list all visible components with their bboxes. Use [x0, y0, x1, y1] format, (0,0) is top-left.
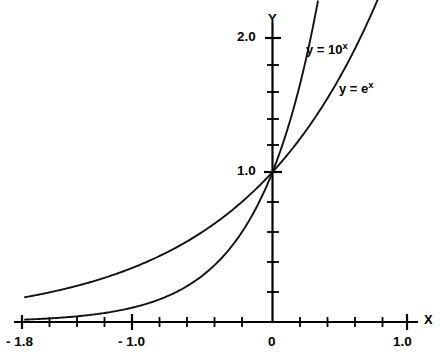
curve-y-equals-10-to-the-x	[25, 1, 318, 319]
x-tick-label-minus-1-8: - 1.8	[6, 335, 33, 349]
curve-label-10-to-the-x-text: y = 10	[306, 42, 343, 57]
x-tick-label-1-0: 1.0	[393, 335, 412, 349]
y-tick-label-1-0: 1.0	[237, 164, 256, 178]
curve-label-e-to-the-x-text: y = e	[339, 81, 368, 96]
chart-plot-area	[0, 0, 440, 356]
curve-label-e-to-the-x: y = ex	[339, 82, 374, 95]
exponential-functions-chart: Y X 2.0 1.0 - 1.8 - 1.0 0 1.0 y = 10x y …	[0, 0, 440, 356]
curve-label-10-to-the-x-exponent: x	[343, 40, 348, 51]
curve-label-10-to-the-x: y = 10x	[306, 43, 348, 56]
x-tick-label-zero: 0	[268, 335, 276, 349]
curve-label-e-to-the-x-exponent: x	[368, 79, 373, 90]
y-axis-label: Y	[268, 12, 277, 25]
x-axis-label: X	[424, 313, 433, 326]
x-tick-label-minus-1-0: - 1.0	[118, 335, 145, 349]
y-tick-label-2-0: 2.0	[237, 30, 256, 44]
